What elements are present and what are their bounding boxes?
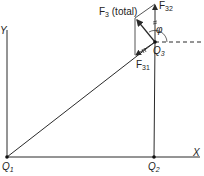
q1-label: Q1 bbox=[2, 161, 14, 173]
q2-label: Q2 bbox=[148, 161, 160, 173]
parallelogram-top-edge bbox=[135, 4, 155, 18]
charge-q2-dot bbox=[152, 155, 156, 159]
charge-q3-dot bbox=[153, 40, 157, 44]
f32-tick-mark bbox=[153, 21, 157, 22]
charge-q1-dot bbox=[5, 155, 9, 159]
f3-total-label: F3 (total) bbox=[99, 6, 137, 18]
q3-label: Q3 bbox=[153, 45, 165, 57]
f31-label: F31 bbox=[136, 59, 150, 71]
f32-label: F32 bbox=[159, 0, 173, 12]
f3-total-vector bbox=[137, 20, 155, 42]
line-q2-q3 bbox=[154, 42, 155, 157]
x-axis-label: X bbox=[192, 147, 200, 158]
force-diagram: Y X Q1 Q2 Q3 F3 (total) F32 F31 φ bbox=[0, 0, 204, 176]
line-q1-q3 bbox=[7, 42, 155, 157]
angle-phi-label: φ bbox=[156, 24, 163, 35]
